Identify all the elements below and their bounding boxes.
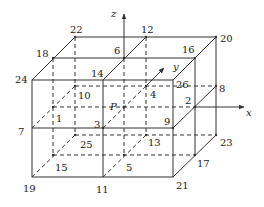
label-15: 15 (55, 162, 68, 173)
label-18: 18 (36, 48, 49, 59)
label-9: 9 (164, 116, 170, 127)
label-23: 23 (220, 137, 233, 148)
label-26: 26 (176, 79, 189, 90)
y-axis-arrow (146, 68, 164, 86)
label-10: 10 (78, 90, 91, 101)
center-point-P (123, 106, 126, 109)
label-8: 8 (219, 83, 225, 94)
label-14: 14 (91, 68, 104, 79)
label-16: 16 (182, 44, 195, 55)
label-20: 20 (220, 33, 233, 44)
label-3: 3 (94, 119, 100, 130)
label-22: 22 (70, 24, 83, 35)
label-6: 6 (114, 45, 120, 56)
label-11: 11 (96, 184, 109, 195)
label-2: 2 (185, 95, 191, 106)
label-13: 13 (148, 137, 161, 148)
center-point-label: P (109, 101, 117, 112)
z-axis-label: z (110, 8, 117, 19)
label-17: 17 (197, 158, 210, 169)
label-12: 12 (141, 24, 154, 35)
label-1: 1 (56, 113, 62, 124)
label-19: 19 (23, 183, 36, 194)
label-21: 21 (176, 180, 189, 191)
label-4: 4 (150, 89, 156, 100)
label-25: 25 (80, 139, 93, 150)
axes: z x y (110, 8, 252, 118)
label-5: 5 (126, 162, 132, 173)
x-axis-label: x (246, 107, 252, 118)
label-24: 24 (15, 74, 28, 85)
cuboid-lattice-diagram: z x y P 1 2 3 4 5 6 7 8 9 10 11 12 13 14… (0, 0, 264, 207)
label-7: 7 (18, 126, 24, 137)
y-axis-label: y (172, 61, 179, 72)
